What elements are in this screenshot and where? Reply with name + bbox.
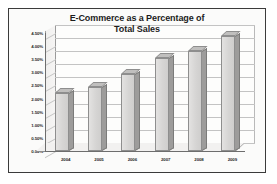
chart-title-line-1: E-Commerce as a Percentage of xyxy=(57,13,217,24)
y-axis-tick-labels: 4.50%4.00%3.50%3.00%2.50%2.00%1.50%1.00%… xyxy=(9,25,43,151)
bar-face xyxy=(121,74,135,151)
x-axis-tick-label: 2005 xyxy=(86,157,112,162)
bar-side xyxy=(102,84,107,151)
y-axis-tick-label: 3.50% xyxy=(13,57,43,62)
bar-face xyxy=(188,51,202,151)
bar xyxy=(121,66,139,151)
bar-series xyxy=(45,33,245,151)
y-axis-tick-label: 4.00% xyxy=(13,44,43,49)
bar-side xyxy=(202,48,207,151)
bar-face xyxy=(55,93,69,151)
gridline xyxy=(55,25,255,26)
bar-side xyxy=(169,55,174,151)
y-axis-tick-label: 1.00% xyxy=(13,122,43,127)
y-axis-tick-label: 2.00% xyxy=(13,96,43,101)
x-axis-tick-label: 2004 xyxy=(53,157,79,162)
bar xyxy=(221,28,239,151)
chart-frame: E-Commerce as a Percentage of Total Sale… xyxy=(8,8,266,173)
y-axis-tick-label: 3.00% xyxy=(13,70,43,75)
y-axis-tick-label: 0.50% xyxy=(13,135,43,140)
bar-side xyxy=(69,90,74,151)
plot-area xyxy=(45,25,255,151)
x-axis-line xyxy=(45,151,245,152)
bar xyxy=(188,43,206,151)
x-axis-tick-label: 2009 xyxy=(219,157,245,162)
bar-face xyxy=(221,36,235,151)
x-axis-tick-label: 2006 xyxy=(119,157,145,162)
bar xyxy=(155,50,173,151)
bar-side xyxy=(235,33,240,151)
bar xyxy=(88,79,106,151)
y-axis-tick-label: 1.50% xyxy=(13,109,43,114)
bar xyxy=(55,85,73,151)
x-axis-tick-label: 2008 xyxy=(186,157,212,162)
x-axis-tick-labels: 200420052006200720082009 xyxy=(45,157,255,169)
x-axis-tick-label: 2007 xyxy=(153,157,179,162)
y-axis-tick-label: 4.50% xyxy=(13,31,43,36)
bar-face xyxy=(88,87,102,151)
bar-side xyxy=(135,71,140,151)
bar-face xyxy=(155,58,169,151)
y-axis-tick-label: 2.50% xyxy=(13,83,43,88)
